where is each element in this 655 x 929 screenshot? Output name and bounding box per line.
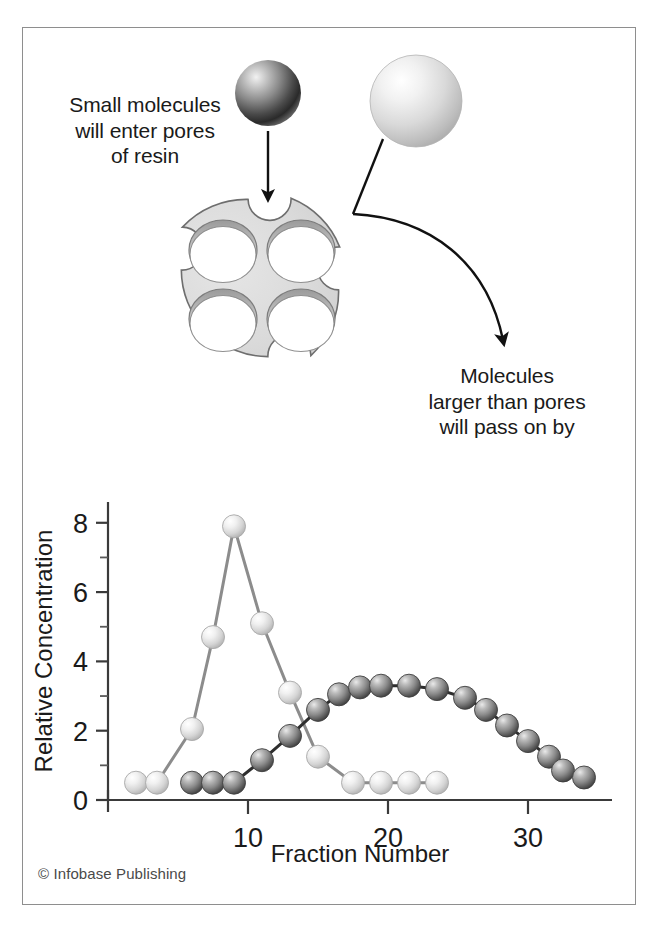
large-molecules-annotation: Molecules larger than pores will pass on… — [398, 363, 616, 440]
small-molecules-annotation: Small molecules will enter pores of resi… — [47, 92, 243, 169]
figure-root: Small molecules will enter pores of resi… — [0, 0, 655, 929]
copyright-notice: © Infobase Publishing — [38, 865, 186, 882]
